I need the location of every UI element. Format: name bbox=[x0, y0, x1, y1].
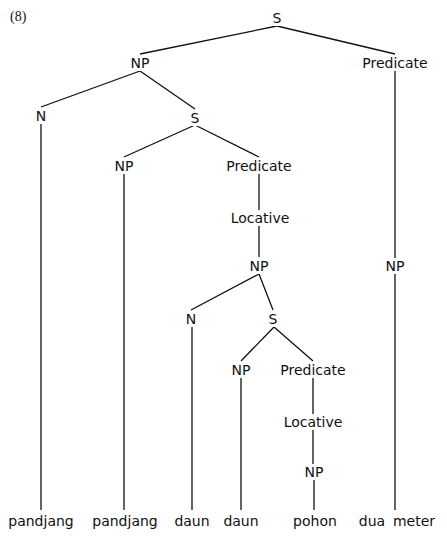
tree-node-np2: NP bbox=[114, 158, 135, 174]
tree-edge-s2-pred3 bbox=[274, 327, 313, 361]
tree-node-pred2: Predicate bbox=[225, 158, 292, 174]
tree-edge-np1-n1 bbox=[41, 71, 140, 107]
tree-node-s0: S bbox=[272, 10, 283, 26]
tree-leaf-w6: dua bbox=[358, 513, 386, 529]
tree-node-np3: NP bbox=[249, 258, 270, 274]
tree-edge-np1-s1 bbox=[140, 71, 195, 109]
tree-edge-s1-pred2 bbox=[195, 125, 259, 157]
tree-node-n1: N bbox=[35, 108, 47, 124]
tree-leaf-w7: meter bbox=[392, 513, 436, 529]
tree-node-np_r: NP bbox=[385, 258, 406, 274]
tree-edge-s0-pred1 bbox=[277, 26, 395, 54]
tree-leaf-w2: pandjang bbox=[91, 513, 158, 529]
tree-edge-s1-np2 bbox=[124, 125, 195, 157]
tree-edge-np3-s2 bbox=[259, 274, 273, 310]
tree-node-np5: NP bbox=[304, 464, 325, 480]
tree-node-pred1: Predicate bbox=[361, 55, 428, 71]
tree-node-pred3: Predicate bbox=[279, 362, 346, 378]
tree-leaf-w1: pandjang bbox=[7, 513, 74, 529]
tree-edge-np3-n2 bbox=[191, 274, 259, 310]
tree-node-loc2: Locative bbox=[283, 414, 344, 430]
tree-edge-s2-np4 bbox=[241, 327, 274, 361]
tree-leaf-w3: daun bbox=[173, 513, 210, 529]
tree-node-np1: NP bbox=[130, 55, 151, 71]
tree-edge-s0-np1 bbox=[140, 26, 277, 54]
tree-node-s2: S bbox=[268, 311, 279, 327]
tree-node-n2: N bbox=[185, 311, 197, 327]
tree-node-loc1: Locative bbox=[230, 210, 291, 226]
tree-node-np4: NP bbox=[231, 362, 252, 378]
tree-leaf-w4: daun bbox=[222, 513, 259, 529]
tree-leaf-w5: pohon bbox=[292, 513, 338, 529]
tree-node-s1: S bbox=[190, 110, 201, 126]
syntax-tree-edges bbox=[0, 0, 447, 540]
